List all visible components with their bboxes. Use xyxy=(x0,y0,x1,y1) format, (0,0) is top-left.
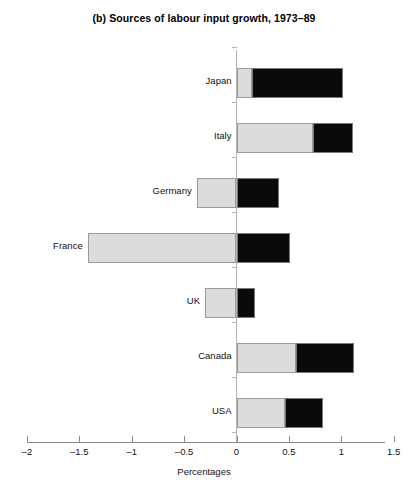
x-axis-tick-label: 1 xyxy=(339,446,344,457)
y-axis-tick xyxy=(232,102,237,103)
x-axis-tick-label: –1 xyxy=(126,446,137,457)
y-axis-tick xyxy=(232,267,237,268)
x-axis-tick-label: 0 xyxy=(234,446,239,457)
category-label-canada: Canada xyxy=(198,350,231,361)
bar-segment-employment xyxy=(237,178,280,208)
bar-segment-employment xyxy=(313,123,353,153)
x-axis-tick-label: –1.5 xyxy=(70,446,89,457)
bar-row: Italy xyxy=(0,110,408,165)
category-label-japan: Japan xyxy=(206,75,232,86)
y-axis-tick xyxy=(232,47,237,48)
bar-segment-hours xyxy=(237,123,314,153)
bar-segment-hours xyxy=(237,398,285,428)
x-axis-tick xyxy=(184,436,185,442)
x-axis-tick xyxy=(79,436,80,442)
y-axis-tick xyxy=(232,377,237,378)
bar-row: UK xyxy=(0,275,408,330)
category-label-uk: UK xyxy=(187,295,200,306)
x-axis-tick-label: –2 xyxy=(22,446,33,457)
bar-segment-hours xyxy=(237,68,253,98)
x-axis-tick xyxy=(289,436,290,442)
bar-row: France xyxy=(0,220,408,275)
x-axis-tick-label: –0.5 xyxy=(175,446,194,457)
y-axis-line xyxy=(236,50,237,442)
x-axis-tick xyxy=(341,436,342,442)
bar-segment-hours xyxy=(237,343,297,373)
y-axis-tick xyxy=(232,212,237,213)
bar-segment-hours xyxy=(197,178,237,208)
category-label-italy: Italy xyxy=(214,130,231,141)
x-axis-tick xyxy=(132,436,133,442)
bar-row: USA xyxy=(0,385,408,440)
x-axis-tick-label: 1.5 xyxy=(387,446,400,457)
x-axis-tick xyxy=(27,436,28,442)
category-label-france: France xyxy=(53,240,83,251)
bar-segment-hours xyxy=(88,233,237,263)
x-axis-tick-label: 0.5 xyxy=(282,446,295,457)
plot-area: JapanItalyGermanyFranceUKCanadaUSA xyxy=(0,50,408,440)
bar-segment-hours xyxy=(205,288,236,318)
bar-segment-employment xyxy=(285,398,324,428)
x-axis-tick xyxy=(237,436,238,442)
category-label-germany: Germany xyxy=(153,185,192,196)
chart-title: (b) Sources of labour input growth, 1973… xyxy=(0,12,408,24)
bar-segment-employment xyxy=(237,288,256,318)
category-label-usa: USA xyxy=(212,405,232,416)
x-axis-title: Percentages xyxy=(0,466,408,477)
bar-row: Canada xyxy=(0,330,408,385)
bar-segment-employment xyxy=(237,233,290,263)
y-axis-tick xyxy=(232,157,237,158)
y-axis-tick xyxy=(232,432,237,433)
bar-row: Japan xyxy=(0,55,408,110)
bar-segment-employment xyxy=(252,68,343,98)
x-axis-line xyxy=(27,442,385,443)
x-axis-tick xyxy=(394,436,395,442)
bar-row: Germany xyxy=(0,165,408,220)
y-axis-tick xyxy=(232,322,237,323)
bar-segment-employment xyxy=(296,343,354,373)
